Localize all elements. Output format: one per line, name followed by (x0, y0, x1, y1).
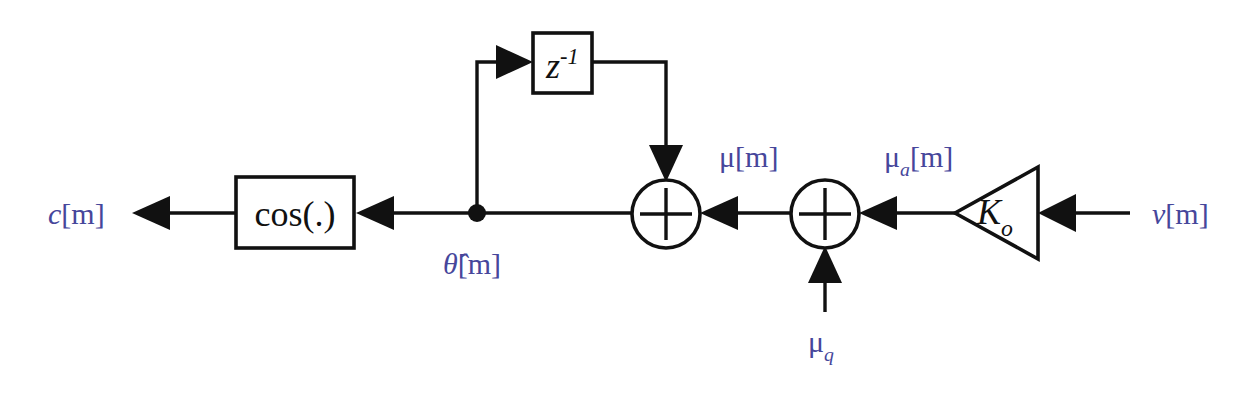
signal-label-mu-q-subscript: q (824, 343, 834, 365)
adder-right[interactable] (791, 180, 859, 248)
cosine-block[interactable]: cos(.) (236, 177, 354, 248)
signal-label-output-c: c[m] (48, 197, 105, 230)
signal-label-output-c-base: c (48, 197, 61, 230)
signal-label-theta-hat-index: [m] (458, 247, 501, 280)
delay-block[interactable]: z-1 (533, 33, 592, 93)
wire-cos-to-output (132, 196, 236, 230)
wire-node-to-cos (356, 196, 477, 230)
wire-delay-down-to-adderleft (592, 62, 683, 182)
signal-label-mu-a: μa[m] (884, 140, 953, 180)
delay-block-label-base: z (545, 46, 560, 86)
wire-input-to-gain (1038, 194, 1130, 232)
wire-gain-to-adderright (859, 196, 955, 230)
block-diagram-canvas: cos(.) z-1 Ko c[m] θ̂[m] μ[m] μa[m] μq v… (0, 0, 1257, 395)
signal-flow-diagram: cos(.) z-1 Ko c[m] θ̂[m] μ[m] μa[m] μq v… (0, 0, 1257, 395)
arrowhead-delay-input (496, 45, 533, 79)
wire-node-up-to-delay (477, 45, 533, 213)
signal-label-mu-q: μq (808, 325, 834, 365)
signal-label-theta-hat: θ̂[m] (443, 247, 501, 280)
wire-muq-to-adderright (808, 246, 842, 312)
arrowhead-adderleft-right (700, 196, 738, 230)
adder-left[interactable] (632, 180, 700, 248)
arrowhead-gain-input (1038, 194, 1076, 232)
gain-block-label-base: K (976, 192, 1003, 232)
arrowhead-cos-input (356, 196, 394, 230)
signal-label-mu-a-base: μ (884, 140, 900, 173)
signal-label-input-v: v[m] (1152, 197, 1209, 230)
signal-label-mu-a-subscript: a (900, 158, 910, 180)
signal-label-mu-a-index: [m] (910, 140, 953, 173)
arrowhead-adderright-bottom (808, 246, 842, 283)
wire-adderright-to-adderleft (700, 196, 791, 230)
signal-label-mu: μ[m] (719, 140, 778, 173)
signal-label-mu-index: [m] (735, 140, 778, 173)
arrowhead-output-c (132, 196, 170, 230)
gain-block-label-subscript: o (1001, 215, 1013, 241)
signal-label-input-v-index: [m] (1165, 197, 1208, 230)
signal-label-output-c-index: [m] (61, 197, 104, 230)
theta-branch-node (468, 204, 486, 222)
signal-label-mu-base: μ (719, 140, 735, 173)
arrowhead-adderleft-top (649, 145, 683, 182)
arrowhead-adderright-right (859, 196, 897, 230)
delay-block-label-exponent: -1 (560, 44, 579, 69)
cosine-block-label: cos(.) (255, 194, 336, 234)
signal-label-input-v-base: v (1152, 197, 1166, 230)
signal-label-mu-q-base: μ (808, 325, 824, 358)
gain-block[interactable]: Ko (955, 167, 1038, 259)
